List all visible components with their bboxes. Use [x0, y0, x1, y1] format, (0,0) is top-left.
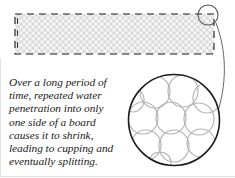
- board-texture-fill: [15, 14, 214, 54]
- caption-text: Over a long period of time, repeated wat…: [9, 76, 125, 168]
- caption-line: eventually splitting.: [9, 155, 125, 168]
- caption-line: one side of a board: [9, 116, 125, 129]
- caption-line: Over a long period of: [9, 76, 125, 89]
- caption-line: time, repeated water: [9, 89, 125, 102]
- caption-line: penetration into only: [9, 102, 125, 115]
- figure-container: Over a long period of time, repeated wat…: [0, 0, 235, 178]
- caption-line: causes it to shrink,: [9, 129, 125, 142]
- caption-line: leading to cupping and: [9, 142, 125, 155]
